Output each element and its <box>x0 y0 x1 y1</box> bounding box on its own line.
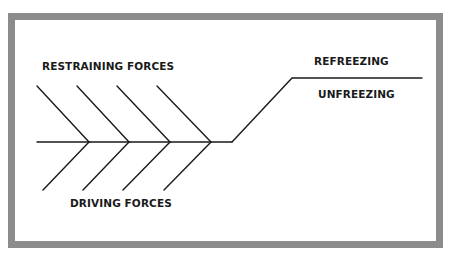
refreezing-label: REFREEZING <box>314 55 389 67</box>
restraining-force-2 <box>77 86 129 142</box>
driving-force-4 <box>164 142 211 190</box>
driving-force-2 <box>83 142 129 190</box>
driving-forces-label: DRIVING FORCES <box>70 197 172 209</box>
force-field-diagram <box>0 0 450 255</box>
restraining-force-4 <box>157 86 211 142</box>
restraining-force-3 <box>117 86 170 142</box>
driving-force-3 <box>123 142 170 190</box>
restraining-force-1 <box>37 86 89 142</box>
unfreezing-label: UNFREEZING <box>318 88 395 100</box>
restraining-forces-label: RESTRAINING FORCES <box>42 60 174 72</box>
driving-force-1 <box>43 142 89 190</box>
